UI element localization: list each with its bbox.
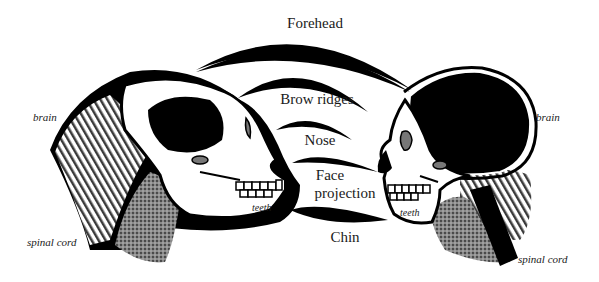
human-brain-label: brain	[536, 112, 560, 123]
label-brow-ridges: Brow ridges	[262, 92, 372, 107]
skull-comparison-diagram: Forehead Brow ridges Nose Face projectio…	[0, 0, 599, 282]
human-head	[378, 68, 536, 267]
label-face-projection-line2: projection	[305, 186, 385, 201]
human-teeth-label: teeth	[400, 208, 419, 218]
label-nose: Nose	[290, 133, 350, 148]
label-face-projection-line1: Face	[300, 168, 360, 183]
ape-brain-label: brain	[33, 112, 57, 123]
human-spinal-cord-label: spinal cord	[518, 254, 567, 265]
label-forehead: Forehead	[270, 16, 360, 31]
chin-arc	[290, 207, 388, 223]
ape-spinal-cord-label: spinal cord	[27, 237, 76, 248]
label-chin: Chin	[320, 230, 370, 245]
ape-teeth-label: teeth	[252, 203, 271, 213]
